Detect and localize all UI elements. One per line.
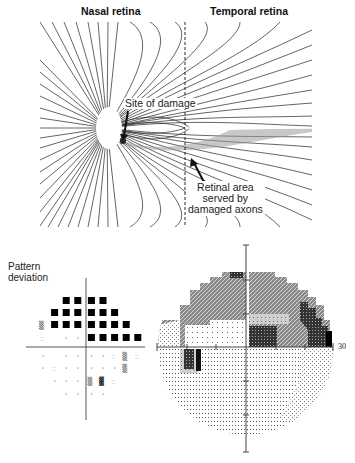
deviation-cell-black <box>111 321 118 328</box>
deviation-cell-normal <box>43 368 44 369</box>
deviation-cell-black <box>100 334 107 341</box>
deviation-cell-black <box>100 297 107 304</box>
deviation-cell-dense: ▒ <box>122 351 127 361</box>
deviation-cell-dense: ▓ <box>99 376 104 386</box>
deviation-cell-black <box>88 297 95 304</box>
deviation-cell-normal <box>114 368 115 369</box>
deviation-cell-black <box>74 309 81 316</box>
deviation-cell-dense: ▒ <box>87 376 92 386</box>
retinal-area-label: Retinal area served by damaged axons <box>186 181 265 216</box>
axis-30-label: 30 <box>338 342 346 351</box>
pattern-deviation-line-1: Pattern <box>8 261 48 272</box>
deviation-cell-normal <box>77 338 78 339</box>
deviation-cell-normal <box>77 368 78 369</box>
deviation-cell-sparse: :: <box>135 353 139 360</box>
deviation-cell-black <box>74 297 81 304</box>
retinal-nerve-fiber-diagram: ▒::::▒::::▒▒▓:: <box>0 0 355 463</box>
deviation-cell-black <box>51 309 58 316</box>
deviation-cell-normal <box>54 381 55 382</box>
deviation-cell-normal <box>91 356 92 357</box>
deviation-cell-normal <box>66 368 67 369</box>
deviation-cell-sparse: :: <box>112 353 116 360</box>
site-of-damage-label: Site of damage <box>124 98 197 109</box>
deviation-cell-sparse: :: <box>52 365 56 372</box>
deviation-cell-black <box>63 297 70 304</box>
deviation-cell-normal <box>91 394 92 395</box>
deviation-cell-normal <box>77 381 78 382</box>
pattern-deviation-line-2: deviation <box>8 272 48 283</box>
deviation-cell-black <box>134 334 141 341</box>
deviation-cell-normal <box>77 356 78 357</box>
deviation-cell-black <box>88 309 95 316</box>
deviation-cell-black <box>111 309 118 316</box>
deviation-cell-black <box>100 321 107 328</box>
deviation-cell-normal <box>103 394 104 395</box>
pattern-deviation-title: Pattern deviation <box>8 261 48 283</box>
deviation-cell-dense: ▒ <box>122 363 127 373</box>
deviation-cell-sparse: :: <box>40 335 44 342</box>
deviation-cell-normal <box>103 356 104 357</box>
deviation-cell-normal <box>77 394 78 395</box>
deviation-cell-normal <box>66 394 67 395</box>
deviation-cell-black <box>123 321 130 328</box>
optic-disc <box>96 107 122 149</box>
deviation-cell-black <box>111 334 118 341</box>
deviation-cell-black <box>63 309 70 316</box>
deviation-cell-normal <box>66 338 67 339</box>
deviation-cell-black <box>88 321 95 328</box>
deviation-cell-normal <box>66 381 67 382</box>
deviation-cell-normal <box>66 356 67 357</box>
retinal-area-line-3: damaged axons <box>188 204 263 215</box>
deviation-cell-black <box>123 334 130 341</box>
deviation-cell-black <box>63 321 70 328</box>
pattern-deviation-axes <box>26 278 145 420</box>
deviation-cell-normal <box>91 368 92 369</box>
deviation-cell-normal <box>43 356 44 357</box>
site-of-damage-dot <box>120 138 126 144</box>
deviation-cell-black <box>100 309 107 316</box>
deviation-cell-black <box>74 321 81 328</box>
deviation-cell-normal <box>103 368 104 369</box>
pattern-deviation-cells: ▒::::▒::::▒▒▓:: <box>39 297 141 395</box>
deviation-cell-dense: ▒ <box>39 320 44 330</box>
deviation-cell-black <box>51 321 58 328</box>
deviation-cell-black <box>88 334 95 341</box>
deviation-cell-sparse: :: <box>112 378 116 385</box>
nerve-fiber-lines <box>40 22 312 227</box>
